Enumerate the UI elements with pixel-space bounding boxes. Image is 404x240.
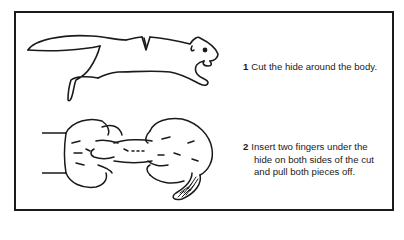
step-2-line-3: and pull both pieces off. bbox=[243, 166, 383, 179]
step-1-number: 1 bbox=[243, 61, 248, 72]
squirrel-with-cut-icon bbox=[22, 28, 222, 104]
step-1-caption: 1Cut the hide around the body. bbox=[243, 61, 377, 74]
step-2-line-2: hide on both sides of the cut bbox=[243, 154, 383, 167]
step-2-caption: 2Insert two fingers under the hide on bo… bbox=[243, 141, 383, 179]
step-2-number: 2 bbox=[243, 141, 248, 152]
step-2-line-1: 2Insert two fingers under the bbox=[243, 141, 383, 154]
hands-pulling-hide-icon bbox=[42, 113, 218, 203]
step-1-text: Cut the hide around the body. bbox=[251, 61, 377, 72]
